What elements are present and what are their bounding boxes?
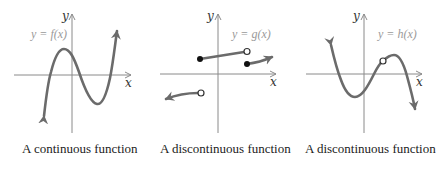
curve-g-left (166, 93, 198, 99)
caption-graph-f: A continuous function (22, 141, 138, 157)
graph-g: y x y = g(x) (160, 9, 277, 133)
curve-g-right (247, 57, 272, 64)
y-axis-label: y (352, 9, 360, 23)
y-axis-label: y (61, 9, 69, 23)
x-axis-label: x (270, 75, 277, 89)
function-label: y = h(x) (377, 27, 417, 41)
graph-h: y x y = h(x) (306, 9, 423, 133)
graph-f: y x y = f(x) (14, 9, 132, 133)
removable-discontinuity-hole (380, 58, 386, 64)
curve-h (331, 45, 415, 109)
curve-f (44, 31, 117, 116)
y-axis-label: y (206, 9, 214, 23)
open-endpoint (198, 90, 204, 96)
filled-endpoint (197, 56, 203, 62)
caption-graph-h: A discontinuous function (305, 141, 436, 157)
function-label: y = f(x) (30, 27, 67, 41)
open-endpoint (244, 49, 250, 55)
x-axis-label: x (416, 75, 423, 89)
x-axis-label: x (125, 76, 132, 90)
filled-endpoint (244, 61, 250, 67)
caption-graph-g: A discontinuous function (160, 141, 291, 157)
function-label: y = g(x) (231, 27, 271, 41)
curve-g-middle (200, 52, 244, 59)
